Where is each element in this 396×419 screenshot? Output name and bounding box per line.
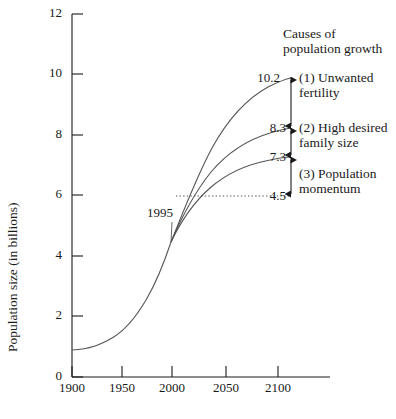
chart-figure: Population size (in billions) 12 10 8 6 … [0, 0, 396, 419]
x-tick-label-1950: 1950 [98, 381, 146, 395]
cause-3-label-line2: momentum [299, 181, 361, 197]
y-tick-label-12: 12 [36, 6, 62, 20]
year-marker-label: 1995 [147, 206, 173, 220]
y-axis-title: Population size (in billions) [6, 202, 21, 352]
legend-title-line2: population growth [283, 41, 382, 57]
cause-2-label-line1: (2) High desired [299, 120, 387, 136]
y-tick-label-2: 2 [36, 308, 62, 322]
legend-title-line1: Causes of [283, 26, 336, 42]
cause-3-label-line1: (3) Population [299, 166, 377, 182]
x-tick-marks [72, 366, 278, 377]
cause-1-label-line1: (1) Unwanted [299, 70, 374, 86]
cause-1-label-line2: fertility [299, 85, 340, 101]
value-label-8-3: 8.3 [252, 121, 286, 135]
y-tick-label-6: 6 [36, 187, 62, 201]
curve-mid-8-3 [171, 128, 291, 242]
x-tick-label-1900: 1900 [48, 381, 96, 395]
x-tick-label-2100: 2100 [254, 381, 302, 395]
y-tick-marks [72, 14, 83, 377]
value-label-7-3: 7.3 [252, 150, 286, 164]
chart-canvas [0, 0, 396, 419]
y-tick-label-10: 10 [36, 66, 62, 80]
value-label-4-5: 4.5 [252, 189, 286, 203]
x-tick-label-2000: 2000 [148, 381, 196, 395]
x-tick-label-2050: 2050 [202, 381, 250, 395]
historical-curve [72, 242, 171, 350]
value-label-10-2: 10.2 [246, 71, 280, 85]
cause-2-label-line2: family size [299, 135, 359, 151]
y-tick-label-4: 4 [36, 248, 62, 262]
y-tick-label-8: 8 [36, 127, 62, 141]
